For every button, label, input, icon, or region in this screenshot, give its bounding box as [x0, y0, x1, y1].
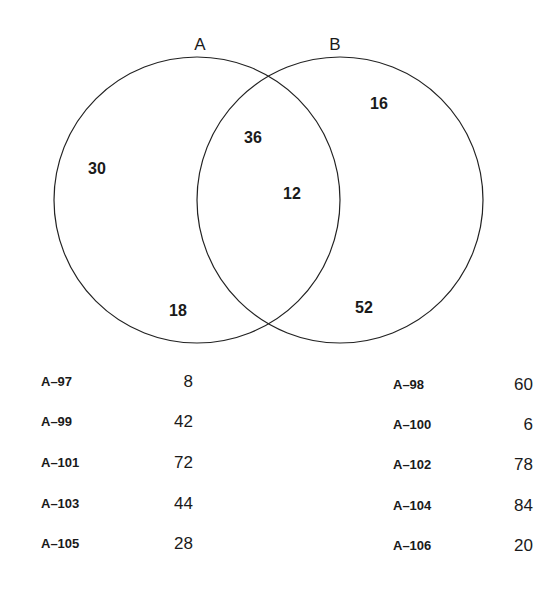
choice-item[interactable]: A–102 78 [393, 455, 523, 475]
choice-item[interactable]: A–103 44 [41, 494, 171, 514]
choice-label: A–101 [41, 455, 79, 470]
region-intersection-upper: 36 [244, 129, 262, 146]
choice-value: 60 [493, 375, 533, 395]
choice-item[interactable]: A–100 6 [393, 415, 523, 435]
choice-value: 6 [493, 415, 533, 435]
choice-label: A–100 [393, 417, 431, 432]
choice-value: 78 [493, 455, 533, 475]
set-a-label: A [194, 35, 206, 54]
choice-item[interactable]: A–97 8 [41, 372, 171, 392]
region-b-only-lower: 52 [355, 299, 373, 316]
choice-item[interactable]: A–106 20 [393, 536, 523, 556]
choice-value: 28 [153, 534, 193, 554]
region-b-only-upper: 16 [370, 95, 388, 112]
choice-item[interactable]: A–101 72 [41, 453, 171, 473]
region-a-only-lower: 18 [169, 302, 187, 319]
region-a-only-upper: 30 [88, 160, 106, 177]
choice-label: A–102 [393, 457, 431, 472]
choice-label: A–98 [393, 377, 424, 392]
choice-value: 84 [493, 496, 533, 516]
choice-value: 8 [153, 372, 193, 392]
choice-value: 20 [493, 536, 533, 556]
choice-label: A–104 [393, 498, 431, 513]
choice-item[interactable]: A–98 60 [393, 375, 523, 395]
choice-label: A–106 [393, 538, 431, 553]
choice-item[interactable]: A–99 42 [41, 412, 171, 432]
region-intersection-center: 12 [283, 185, 301, 202]
choice-label: A–103 [41, 496, 79, 511]
choice-value: 44 [153, 494, 193, 514]
choice-value: 42 [153, 412, 193, 432]
set-b-label: B [329, 35, 340, 54]
choice-item[interactable]: A–104 84 [393, 496, 523, 516]
choice-label: A–99 [41, 414, 72, 429]
choice-item[interactable]: A–105 28 [41, 534, 171, 554]
choice-label: A–105 [41, 536, 79, 551]
choice-value: 72 [153, 453, 193, 473]
choice-label: A–97 [41, 374, 72, 389]
venn-diagram: A B 30 18 36 12 16 52 [0, 0, 535, 360]
